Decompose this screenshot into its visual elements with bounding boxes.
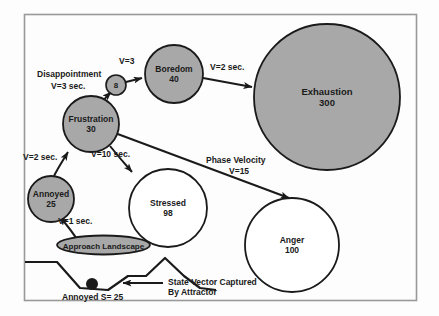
edge-label-annoyed-to-frustration: V=2 sec. [23, 152, 57, 162]
edge-label-frustration-to-hub: V=3 sec. [51, 81, 85, 91]
node-anger[interactable]: Anger 100 [245, 198, 339, 292]
node-anger-value: 100 [285, 245, 299, 255]
approach-landscape-node[interactable]: Approach Landscape [57, 236, 150, 255]
disappointment-label: Disappointment [37, 69, 101, 79]
node-annoyed-value: 25 [46, 199, 56, 209]
edge-label-frustration-to-anger: V=15 [229, 166, 249, 176]
node-boredom-value: 40 [169, 74, 179, 84]
phase-space-diagram: Exhaustion 300 Boredom 40 8 Frustration … [0, 0, 439, 316]
node-frustration-label: Frustration [69, 114, 114, 124]
node-anger-label: Anger [280, 235, 305, 245]
node-frustration[interactable]: Frustration 30 [63, 96, 119, 152]
node-boredom[interactable]: Boredom 40 [145, 45, 203, 103]
edge-label-approach-to-annoyed: V=1 sec. [58, 216, 92, 226]
annoyed-state-label: Annoyed S= 25 [62, 292, 123, 302]
state-vector-label-line2: By Attractor [168, 287, 217, 297]
phase-velocity-label: Phase Velocity [206, 155, 266, 165]
diagram-canvas: Exhaustion 300 Boredom 40 8 Frustration … [0, 0, 439, 316]
state-vector-label-line1: State Vector Captured [168, 277, 257, 287]
state-vector-ball [86, 278, 98, 290]
node-disappointment-hub[interactable]: 8 [106, 75, 126, 95]
edge-label-frustration-to-stressed: V=10 sec. [91, 149, 130, 159]
edge-label-hub-to-boredom: V=3 [119, 56, 135, 66]
node-exhaustion-label: Exhaustion [301, 86, 352, 97]
node-exhaustion[interactable]: Exhaustion 300 [254, 24, 400, 170]
node-stressed[interactable]: Stressed 98 [129, 169, 207, 247]
node-stressed-value: 98 [163, 208, 173, 218]
node-exhaustion-value: 300 [319, 97, 335, 108]
edge-label-boredom-to-exhaustion: V=2 sec. [210, 62, 244, 72]
approach-landscape-label: Approach Landscape [63, 242, 145, 251]
node-boredom-label: Boredom [155, 64, 193, 74]
node-frustration-value: 30 [86, 124, 96, 134]
node-disappointment-hub-label: 8 [114, 81, 119, 90]
node-stressed-label: Stressed [150, 198, 186, 208]
node-annoyed-label: Annoyed [33, 189, 69, 199]
